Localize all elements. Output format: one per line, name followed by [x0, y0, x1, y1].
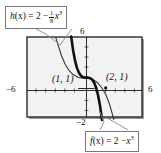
axis-label-y-max: 6	[80, 27, 85, 36]
callout-h: h(x) = 2 −18x3	[5, 6, 67, 29]
point-dot-2-1	[104, 86, 107, 89]
axis-label-x-min: −6	[6, 85, 16, 94]
axis-label-x-max: 6	[148, 85, 153, 94]
point-label-1-1: (1, 1)	[52, 74, 74, 84]
callout-f-equals: = 2 −	[106, 136, 126, 146]
callout-f-exponent: 3	[131, 134, 134, 141]
callout-h-equals: = 2 −	[28, 11, 48, 21]
callout-h-exponent: 3	[59, 9, 62, 16]
point-label-2-1: (2, 1)	[106, 72, 128, 82]
fraction-denominator: 8	[49, 17, 54, 25]
figure-container: h(x) = 2 −18x3 f(x) = 2 −x3 6 −6 6 −2 (1…	[0, 0, 161, 153]
point-dot-1-1	[95, 86, 97, 88]
axis-label-y-min: −2	[76, 118, 86, 127]
callout-f: f(x) = 2 −x3	[85, 131, 139, 152]
callout-h-arg: (x)	[15, 11, 26, 21]
callout-h-fraction: 18	[49, 10, 54, 24]
callout-f-arg: (x)	[93, 136, 104, 146]
